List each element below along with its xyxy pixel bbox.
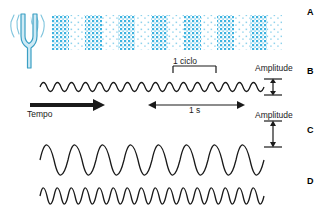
- time-axis-label: Tempo: [27, 110, 53, 119]
- sound-wave-figure: A B C D 1 ciclo 1 s Tempo Amplitude Ampl…: [0, 0, 326, 207]
- tuning-fork: [11, 14, 44, 68]
- panel-label-b: B: [307, 67, 314, 76]
- compression-rarefaction-bands: [52, 15, 282, 50]
- panel-label-c: C: [307, 126, 314, 135]
- panel-label-a: A: [307, 8, 314, 17]
- waveform-c: [40, 145, 264, 175]
- cycle-label: 1 ciclo: [173, 57, 197, 66]
- fork-highlight: [27, 16, 31, 35]
- amplitude-label-b: Amplitude: [255, 64, 293, 73]
- fork-body: [21, 14, 37, 68]
- waveform-d: [40, 188, 264, 204]
- amplitude-label-c: Amplitude: [255, 111, 293, 120]
- period-label: 1 s: [189, 106, 200, 115]
- panel-label-d: D: [307, 177, 314, 186]
- cycle-bracket: [173, 66, 216, 73]
- figure-graphics: [0, 0, 326, 207]
- amplitude-marker-b: [264, 79, 282, 96]
- amplitude-marker-c: [264, 121, 282, 148]
- fork-motion-lines: [11, 15, 44, 37]
- waveform-b: [40, 83, 264, 92]
